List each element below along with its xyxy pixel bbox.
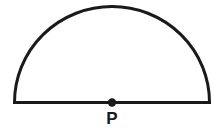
center-point-p-dot: [108, 98, 116, 106]
semicircle-arc: [15, 7, 210, 103]
point-label-p: P: [106, 109, 117, 128]
semicircle-diagram: P: [0, 0, 221, 133]
